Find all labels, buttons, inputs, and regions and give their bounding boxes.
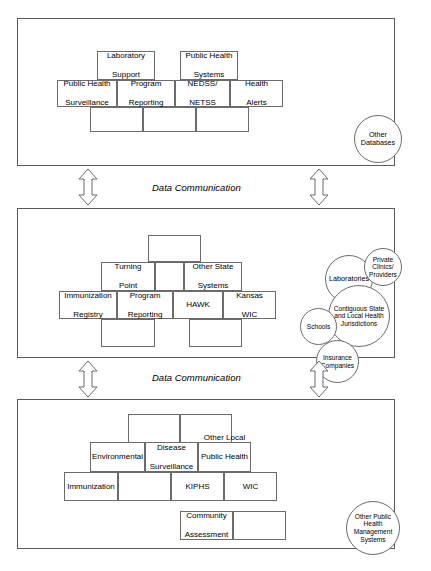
- box-line: Kansas: [236, 291, 263, 300]
- arrow-state-local-left: [77, 360, 99, 398]
- box-state-top[interactable]: [148, 235, 201, 262]
- arrow-federal-state-right: [308, 168, 330, 206]
- box-line: Public Health: [63, 79, 110, 88]
- box-federal-bottom-1[interactable]: [90, 107, 143, 132]
- arrow-state-local-right: [308, 360, 330, 398]
- box-line: KIPHS: [185, 482, 209, 491]
- box-line: HAWK: [186, 300, 210, 309]
- box-hawk[interactable]: HAWK: [173, 291, 223, 319]
- box-kansas-wic[interactable]: Kansas WIC: [223, 291, 276, 319]
- box-public-health-surveillance[interactable]: Public Health Surveillance: [57, 80, 117, 107]
- circle-contiguous-state-and-local-health-jurisdictions[interactable]: Contiguous State and Local Health Jurisd…: [328, 285, 390, 347]
- box-local-mid-empty[interactable]: [118, 472, 171, 501]
- circle-line: Databases: [361, 138, 395, 147]
- box-community-assessment[interactable]: Community Assessment: [180, 511, 233, 540]
- circle-line: Schools: [307, 323, 330, 330]
- box-line: Point: [115, 281, 142, 290]
- box-line: Systems: [193, 281, 234, 290]
- box-line: Surveillance: [63, 98, 110, 107]
- diagram-canvas: Federal Laboratory Support Public Health…: [0, 0, 431, 571]
- box-local-immunization[interactable]: Immunization: [64, 472, 118, 501]
- box-line: Disease: [150, 443, 194, 452]
- box-line: Other State: [193, 262, 234, 271]
- circle-line: Management: [354, 528, 393, 535]
- box-federal-bottom-2[interactable]: [143, 107, 196, 132]
- box-line: Environmental: [92, 452, 143, 461]
- circle-line: Other Public: [355, 513, 391, 520]
- circle-schools[interactable]: Schools: [300, 308, 337, 345]
- box-line: Surveillance: [150, 462, 194, 471]
- box-line: Other Local: [201, 433, 248, 442]
- box-line: Public Health: [185, 51, 232, 60]
- label-data-communication-state-local: Data Communication: [152, 372, 241, 383]
- box-line: Program: [129, 79, 164, 88]
- circle-line: Jurisdictions: [341, 320, 377, 327]
- circle-line: Providers: [369, 271, 397, 278]
- box-laboratory-support[interactable]: Laboratory Support: [97, 51, 155, 80]
- box-line: Laboratory: [107, 51, 145, 60]
- box-turning-point[interactable]: Turning Point: [101, 262, 155, 291]
- box-health-alerts[interactable]: Health Alerts: [230, 80, 283, 107]
- box-line: Systems: [185, 70, 232, 79]
- circle-line: Health: [363, 520, 382, 527]
- box-line: WIC: [243, 482, 259, 491]
- box-state-bottom-1[interactable]: [101, 319, 155, 347]
- box-wic[interactable]: WIC: [224, 472, 277, 501]
- box-state-bottom-2[interactable]: [189, 319, 242, 347]
- box-public-health-systems[interactable]: Public Health Systems: [180, 51, 238, 80]
- box-local-bottom-empty[interactable]: [233, 511, 286, 540]
- box-line: Community: [185, 511, 229, 520]
- circle-line: Systems: [360, 536, 385, 543]
- label-data-communication-federal-state: Data Communication: [152, 182, 241, 193]
- box-line: NEDSS/: [188, 79, 218, 88]
- box-line: WIC: [236, 310, 263, 319]
- circle-line: Laboratories: [329, 274, 369, 283]
- box-line: Program: [128, 291, 163, 300]
- box-line: Health: [245, 79, 268, 88]
- circle-line: Private: [373, 256, 394, 263]
- box-line: Registry: [64, 310, 112, 319]
- box-line: NETSS: [188, 98, 218, 107]
- box-nedss-netss[interactable]: NEDSS/ NETSS: [175, 80, 230, 107]
- box-kiphs[interactable]: KIPHS: [171, 472, 224, 501]
- circle-other-public-health-management-systems[interactable]: Other Public Health Management Systems: [346, 501, 400, 555]
- circle-line: and Local Health: [334, 312, 384, 319]
- box-federal-bottom-3[interactable]: [196, 107, 249, 132]
- box-line: Immunization: [67, 482, 115, 491]
- box-state-program-reporting[interactable]: Program Reporting: [117, 291, 173, 319]
- box-other-local-public-health-services[interactable]: Other Local Public Health Services: [198, 442, 251, 472]
- box-line: Public Health: [201, 452, 248, 461]
- box-immunization-registry[interactable]: Immunization Registry: [59, 291, 117, 319]
- box-environmental[interactable]: Environmental: [90, 442, 145, 472]
- circle-line: Clinics/: [372, 263, 393, 270]
- box-line: Reporting: [128, 310, 163, 319]
- box-state-upper-empty[interactable]: [155, 262, 184, 291]
- circle-private-clinics-providers[interactable]: Private Clinics/ Providers: [364, 248, 402, 286]
- box-line: Alerts: [245, 98, 268, 107]
- box-disease-surveillance[interactable]: Disease Surveillance: [145, 442, 198, 472]
- box-line: Assessment: [185, 530, 229, 539]
- box-line: Support: [107, 70, 145, 79]
- circle-other-databases[interactable]: Other Databases: [354, 115, 402, 163]
- box-line: Reporting: [129, 98, 164, 107]
- arrow-federal-state-left: [77, 168, 99, 206]
- box-line: Turning: [115, 262, 142, 271]
- box-line: Immunization: [64, 291, 112, 300]
- circle-line: Contiguous State: [334, 305, 385, 312]
- box-other-state-systems[interactable]: Other State Systems: [184, 262, 242, 291]
- box-federal-program-reporting[interactable]: Program Reporting: [117, 80, 175, 107]
